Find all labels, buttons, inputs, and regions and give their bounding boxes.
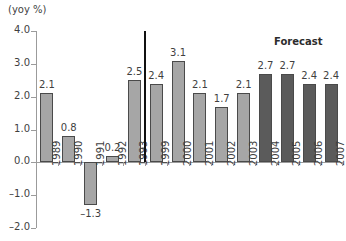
y-axis-tick [31, 195, 36, 196]
x-axis-tick [233, 162, 234, 166]
bar-value-label-2003: 2.1 [230, 79, 258, 90]
bar-value-label-2001: 2.1 [186, 79, 214, 90]
x-axis-tick [298, 162, 299, 166]
x-axis-label-2003: 2003 [248, 141, 259, 166]
y-axis-tick-label: 4.0 [2, 24, 30, 35]
bar-value-label-1999: 2.4 [142, 70, 170, 81]
x-axis-tick [123, 162, 124, 166]
y-axis-line [36, 31, 37, 228]
y-axis-tick-label: 2.0 [2, 90, 30, 101]
bar-value-label-1989: 2.1 [33, 79, 61, 90]
x-axis-tick [276, 162, 277, 166]
x-axis-tick [80, 162, 81, 166]
x-axis-tick [102, 162, 103, 166]
x-axis-label-2001: 2001 [204, 141, 215, 166]
y-axis-tick-label: 1.0 [2, 123, 30, 134]
x-axis-tick [167, 162, 168, 166]
bar-value-label-1990: 0.8 [55, 122, 83, 133]
x-axis-tick [58, 162, 59, 166]
x-axis-label-2006: 2006 [313, 141, 324, 166]
forecast-annotation: Forecast [266, 36, 330, 47]
x-axis-label-1989: 1989 [51, 141, 62, 166]
x-axis-tick [320, 162, 321, 166]
x-axis-tick [36, 162, 37, 166]
x-axis-label-2007: 2007 [335, 141, 346, 166]
x-axis-tick [189, 162, 190, 166]
y-axis-tick [31, 31, 36, 32]
x-axis-label-1990: 1990 [73, 141, 84, 166]
y-axis-tick [31, 64, 36, 65]
y-axis-tick-label: –2.0 [2, 221, 30, 232]
bar-value-label-1991: –1.3 [77, 208, 105, 219]
y-axis-tick [31, 97, 36, 98]
x-axis-label-1999: 1999 [160, 141, 171, 166]
x-axis-tick [342, 162, 343, 166]
x-axis-tick [211, 162, 212, 166]
x-axis-label-1992: 1992 [117, 141, 128, 166]
x-axis-label-2002: 2002 [226, 141, 237, 166]
y-axis-tick [31, 130, 36, 131]
forecast-divider-line [144, 31, 146, 162]
plot-area: 4.03.02.01.00.0–1.0–2.02.119890.81990–1.… [36, 31, 342, 228]
x-axis-label-2004: 2004 [270, 141, 281, 166]
y-axis-unit-label: (yoy %) [8, 4, 46, 15]
bar-value-label-2002: 1.7 [208, 93, 236, 104]
y-axis-tick-label: 3.0 [2, 57, 30, 68]
y-axis-tick-label: –1.0 [2, 188, 30, 199]
y-axis-tick-label: 0.0 [2, 155, 30, 166]
bar-1991[interactable] [84, 162, 97, 205]
x-axis-tick [255, 162, 256, 166]
y-axis-tick [31, 228, 36, 229]
bar-value-label-2007: 2.4 [317, 70, 345, 81]
bar-chart: (yoy %) 4.03.02.01.00.0–1.0–2.02.119890.… [0, 0, 346, 241]
x-axis-label-2005: 2005 [291, 141, 302, 166]
x-axis-tick [145, 162, 146, 166]
x-axis-label-2000: 2000 [182, 141, 193, 166]
bar-value-label-2000: 3.1 [164, 47, 192, 58]
